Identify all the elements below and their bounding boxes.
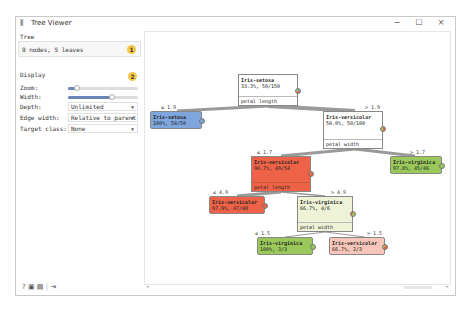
width-slider[interactable]	[68, 96, 138, 99]
output-icon[interactable]: ⇥	[50, 283, 56, 291]
tree-node-leaf[interactable]: Iris-virginica 97.8%, 45/46	[390, 156, 442, 174]
node-class: Iris-virginica	[258, 238, 312, 246]
node-class: Iris-versicolor	[210, 197, 264, 205]
node-class: Iris-virginica	[298, 197, 352, 205]
sidebar: Tree 9 nodes, 5 leaves 1 Display 2 Zoom:…	[16, 31, 141, 295]
horizontal-scrollbar[interactable]: ◂ ▸	[144, 285, 451, 291]
display-badge: 2	[128, 72, 137, 81]
tree-node-leaf[interactable]: Iris-setosa 100%, 50/50	[150, 111, 202, 129]
node-stat: 97.8%, 45/46	[391, 165, 441, 171]
tree-info-text: 9 nodes, 5 leaves	[22, 46, 83, 53]
depth-value: Unlimited	[71, 103, 104, 110]
class-pie-icon	[382, 244, 388, 250]
edge-label: ≤ 1.5	[255, 230, 270, 236]
class-pie-icon	[262, 203, 268, 209]
node-class: Iris-versicolor	[324, 112, 382, 120]
width-label: Width:	[20, 93, 42, 100]
maximize-button[interactable]: ☐	[412, 18, 426, 27]
chevron-down-icon: ▼	[131, 125, 134, 133]
target-class-label: Target class:	[20, 125, 67, 132]
scrollbar-thumb[interactable]	[404, 286, 432, 289]
edge-width-value: Relative to parent	[71, 114, 136, 121]
scroll-left-icon[interactable]: ◂	[146, 283, 149, 289]
tree-node-internal[interactable]: Iris-virginica 66.7%, 4/6 petal width	[297, 196, 353, 232]
edge-width-label: Edge width:	[20, 114, 60, 121]
node-split-attribute: petal length	[252, 182, 310, 191]
chevron-down-icon: ▼	[131, 114, 134, 122]
edge-label: > 1.7	[410, 149, 425, 155]
edge-width-dropdown[interactable]: Relative to parent ▼	[68, 113, 138, 122]
node-split-attribute: petal length	[239, 96, 297, 105]
edge-label: ≤ 1.7	[257, 149, 272, 155]
target-class-value: None	[71, 125, 85, 132]
tree-icon: ⁑	[20, 19, 24, 27]
node-stat: 100%, 3/3	[258, 246, 312, 252]
minimize-button[interactable]: −	[390, 18, 404, 27]
width-slider-fill	[68, 96, 111, 99]
tree-info-box: 9 nodes, 5 leaves 1	[18, 41, 141, 57]
node-stat: 33.3%, 50/150	[239, 83, 297, 89]
window-title: Tree Viewer	[31, 19, 72, 27]
node-class: Iris-setosa	[151, 112, 201, 120]
chevron-down-icon: ▼	[131, 103, 134, 111]
depth-label: Depth:	[20, 103, 42, 110]
tree-viewer-window: ⁑ Tree Viewer − ☐ × Tree 9 nodes, 5 leav…	[15, 16, 456, 296]
class-pie-icon	[295, 88, 301, 94]
zoom-slider-handle[interactable]	[74, 85, 80, 91]
scroll-right-icon[interactable]: ▸	[446, 283, 449, 289]
node-stat: 66.7%, 4/6	[298, 205, 352, 211]
tree-node-internal[interactable]: Iris-versicolor 50.0%, 50/100 petal widt…	[323, 111, 383, 149]
tree-canvas[interactable]: Iris-setosa 33.3%, 50/150 petal length ≤…	[144, 31, 451, 285]
node-class: Iris-versicolor	[252, 157, 310, 165]
class-pie-icon	[439, 163, 445, 169]
divider: |	[46, 283, 48, 291]
close-button[interactable]: ×	[434, 18, 448, 27]
zoom-slider[interactable]	[68, 87, 138, 90]
class-pie-icon	[310, 244, 316, 250]
target-class-dropdown[interactable]: None ▼	[68, 124, 138, 133]
tree-section-label: Tree	[20, 33, 34, 40]
tree-node-leaf[interactable]: Iris-versicolor 97.9%, 47/48	[209, 196, 265, 214]
tree-node-leaf[interactable]: Iris-virginica 100%, 3/3	[257, 237, 313, 255]
title-bar: ⁑ Tree Viewer − ☐ ×	[16, 17, 455, 31]
class-pie-icon	[199, 118, 205, 124]
edge-label: ≤ 4.9	[213, 189, 228, 195]
tree-node-internal[interactable]: Iris-versicolor 90.7%, 49/54 petal lengt…	[251, 156, 311, 192]
help-icon[interactable]: ?	[22, 283, 26, 291]
edge-label: > 1.9	[365, 104, 380, 110]
node-stat: 66.7%, 2/3	[330, 246, 384, 252]
display-section-label: Display	[20, 71, 45, 78]
class-pie-icon	[350, 211, 356, 217]
node-stat: 100%, 50/50	[151, 120, 201, 126]
edge-label: > 4.9	[331, 189, 346, 195]
node-class: Iris-setosa	[239, 75, 297, 83]
node-stat: 50.0%, 50/100	[324, 120, 382, 126]
class-pie-icon	[308, 171, 314, 177]
info-badge: 1	[127, 45, 136, 54]
node-stat: 90.7%, 49/54	[252, 165, 310, 171]
zoom-label: Zoom:	[20, 84, 38, 91]
node-class: Iris-virginica	[391, 157, 441, 165]
save-image-icon[interactable]: ▣	[28, 283, 35, 291]
edge-label: > 1.5	[367, 230, 382, 236]
node-class: Iris-versicolor	[330, 238, 384, 246]
node-split-attribute: petal width	[324, 139, 382, 148]
edge-label: ≤ 1.9	[161, 104, 176, 110]
footer-toolbar: ? ▣ ▤ | ⇥	[22, 283, 56, 291]
report-icon[interactable]: ▤	[37, 283, 44, 291]
width-slider-handle[interactable]	[109, 94, 115, 100]
tree-node-leaf[interactable]: Iris-versicolor 66.7%, 2/3	[329, 237, 385, 255]
node-stat: 97.9%, 47/48	[210, 205, 264, 211]
class-pie-icon	[380, 126, 386, 132]
depth-dropdown[interactable]: Unlimited ▼	[68, 102, 138, 111]
node-split-attribute: petal width	[298, 222, 352, 231]
tree-node-root[interactable]: Iris-setosa 33.3%, 50/150 petal length	[238, 74, 298, 106]
